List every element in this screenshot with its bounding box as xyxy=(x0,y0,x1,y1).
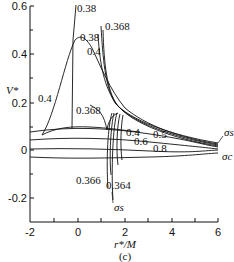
ytick-label: -0.2 xyxy=(8,192,27,204)
caption: (c) xyxy=(119,250,132,262)
annotation: 0.6 xyxy=(134,135,148,147)
xtick-label: -2 xyxy=(25,226,35,238)
annotation: 0.4 xyxy=(87,45,101,57)
annotation: σs xyxy=(114,201,124,213)
annotation: σs xyxy=(224,126,234,138)
annotation: σc xyxy=(222,150,232,162)
xtick-label: 6 xyxy=(215,226,221,238)
curve-0.6 xyxy=(30,149,218,152)
annotation: 0.4 xyxy=(38,92,52,104)
y-axis-label: V* xyxy=(6,84,19,96)
xtick-label: 2 xyxy=(122,226,128,238)
ytick-label: 0.4 xyxy=(12,48,27,60)
leader-line xyxy=(218,136,223,143)
xtick-label: 0 xyxy=(75,226,81,238)
x-ticks xyxy=(54,218,218,222)
annotation: 0.8 xyxy=(153,142,167,154)
annotation: 0.368 xyxy=(76,104,101,116)
annotation: 0.364 xyxy=(106,179,131,191)
y-ticks xyxy=(30,6,34,198)
x-axis-label: r*/M xyxy=(114,238,137,250)
ytick-label: 0.6 xyxy=(12,0,27,12)
curve-0.368 xyxy=(101,26,218,143)
curve-0.8 xyxy=(30,153,218,158)
xtick-label: 4 xyxy=(169,226,175,238)
annotation: 0.38 xyxy=(80,31,100,43)
annotation: 0.366 xyxy=(76,174,101,186)
ytick-label: 0 xyxy=(21,144,27,156)
ytick-label: 0.2 xyxy=(12,97,27,109)
annotation: 0.5 xyxy=(153,128,167,140)
chart: 0.6 0.4 0.2 0 -0.2 -2 0 2 4 6 V* r*/M (c… xyxy=(0,0,234,262)
annotation: 0.368 xyxy=(105,20,130,32)
curve-0.364c xyxy=(121,115,123,160)
annotation: 0.38 xyxy=(77,2,97,14)
